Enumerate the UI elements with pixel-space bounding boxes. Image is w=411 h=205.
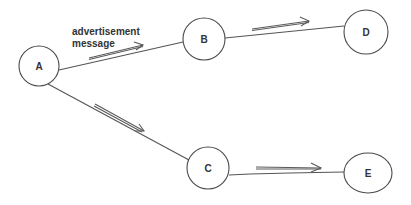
edge-label-line-2: message	[72, 38, 140, 50]
arrow-a-to-c-icon	[94, 104, 144, 132]
graph-diagram: A B C D E advertisement message	[0, 0, 411, 205]
edge-a-b-label: advertisement message	[72, 26, 140, 50]
edge-c-e	[229, 172, 344, 175]
node-d-label: D	[362, 27, 369, 38]
node-e-label: E	[365, 168, 372, 179]
edge-b-d	[225, 26, 344, 38]
arrow-b-to-d-icon	[252, 17, 309, 31]
node-c-label: C	[204, 163, 211, 174]
node-b-label: B	[200, 34, 207, 45]
edge-a-c	[48, 84, 189, 160]
node-a-label: A	[35, 61, 42, 72]
arrow-c-to-e-icon	[256, 163, 321, 172]
diagram-canvas	[0, 0, 411, 205]
edge-label-line-1: advertisement	[72, 26, 140, 38]
